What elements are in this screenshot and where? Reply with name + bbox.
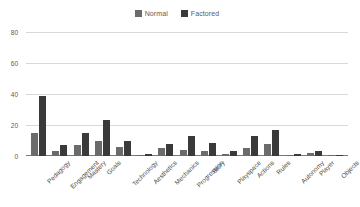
legend-swatch-normal (135, 10, 142, 17)
bar-factored (39, 96, 46, 156)
bar-factored (60, 145, 67, 156)
bar-factored (336, 155, 343, 156)
x-axis-label-cell: Goals (92, 157, 113, 205)
bar-normal (243, 148, 250, 156)
bar-normal (52, 151, 59, 156)
bar-factored (272, 130, 279, 156)
x-axis-label-cell: Actions (240, 157, 261, 205)
bar-group (304, 32, 325, 156)
bar-group (70, 32, 91, 156)
bar-normal (264, 144, 271, 156)
x-axis-tick-label: Objects (340, 159, 360, 180)
bar-factored (166, 144, 173, 156)
legend-label-factored: Factored (191, 10, 219, 17)
bar-factored (251, 136, 258, 156)
x-axis-label-cell: Player (304, 157, 325, 205)
bar-normal (180, 150, 187, 156)
y-axis-tick-label: 0 (0, 153, 18, 160)
x-axis-label-cell: Mechanics (155, 157, 176, 205)
bar-group (155, 32, 176, 156)
x-axis-label-cell: Pedagogy (28, 157, 49, 205)
bar-factored (82, 133, 89, 156)
bar-factored (188, 136, 195, 156)
bar-factored (124, 141, 131, 156)
bar-group (134, 32, 155, 156)
bar-factored (209, 143, 216, 156)
bar-normal (74, 145, 81, 156)
bar-group (113, 32, 134, 156)
x-axis-label-cell: Rules (261, 157, 282, 205)
chart-legend: Normal Factored (0, 10, 354, 17)
legend-entry-normal: Normal (135, 10, 168, 17)
bar-normal (116, 147, 123, 156)
bar-normal (31, 133, 38, 156)
legend-entry-factored: Factored (181, 10, 219, 17)
x-axis-label-cell: Technology (113, 157, 134, 205)
bar-group (282, 32, 303, 156)
y-axis-tick-label: 40 (0, 91, 18, 98)
bar-factored (315, 151, 322, 156)
bar-factored (294, 154, 301, 156)
x-axis-label-cell: Playspace (219, 157, 240, 205)
plot-area: 020406080 (26, 32, 348, 156)
bar-factored (103, 120, 110, 156)
bar-normal (158, 148, 165, 156)
bar-normal (201, 151, 208, 156)
y-axis-tick-label: 60 (0, 60, 18, 67)
bar-normal (328, 155, 335, 156)
legend-swatch-factored (181, 10, 188, 17)
x-axis-label-cell: Progression (176, 157, 197, 205)
bar-group (325, 32, 346, 156)
bar-normal (307, 153, 314, 156)
bar-normal (286, 155, 293, 156)
x-axis-label-cell: Mastery (70, 157, 91, 205)
x-axis-label-cell: Objects (325, 157, 346, 205)
bar-normal (95, 141, 102, 157)
y-axis-tick-label: 20 (0, 122, 18, 129)
x-axis-labels: PedagogyEngagementMasteryGoalsTechnology… (26, 157, 348, 205)
bar-group (261, 32, 282, 156)
x-axis-label-cell: Engagement (49, 157, 70, 205)
bar-group (219, 32, 240, 156)
x-axis-label-cell: Story (198, 157, 219, 205)
legend-label-normal: Normal (145, 10, 168, 17)
bar-group (92, 32, 113, 156)
y-axis-tick-label: 80 (0, 29, 18, 36)
bar-group (49, 32, 70, 156)
bar-groups (26, 32, 348, 156)
bar-factored (145, 154, 152, 156)
bar-group (176, 32, 197, 156)
bar-normal (222, 154, 229, 156)
bar-normal (137, 155, 144, 156)
bar-group (198, 32, 219, 156)
x-axis-label-cell: Autonomy (282, 157, 303, 205)
bar-group (28, 32, 49, 156)
x-axis-label-cell: Aesthetics (134, 157, 155, 205)
bar-factored (230, 151, 237, 156)
bar-group (240, 32, 261, 156)
